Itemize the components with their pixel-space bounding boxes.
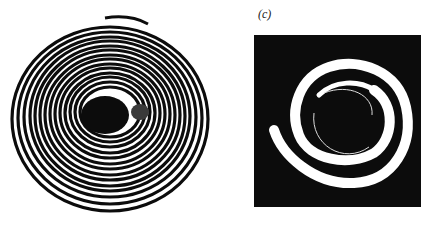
dark-core [81, 96, 129, 134]
panel-label-c: (c) [258, 7, 271, 22]
spiral-figure [254, 35, 421, 207]
concentric-rings-graphic [0, 0, 240, 226]
concentric-rings-figure [0, 0, 240, 226]
spiral-graphic [254, 35, 421, 207]
